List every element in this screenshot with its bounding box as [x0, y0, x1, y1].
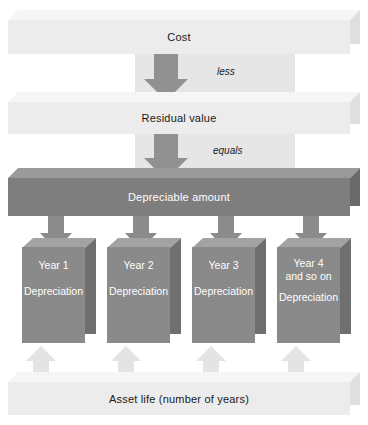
bar-cost: Cost: [8, 10, 360, 54]
cube-right-face: [170, 238, 181, 334]
depreciation-label: Depreciation: [194, 285, 253, 297]
arrow-shaft: [154, 53, 178, 81]
slab-top-face: [8, 10, 360, 20]
cube-front-face: Year 3 Depreciation: [192, 247, 255, 343]
year-box-1: Year 1 Depreciation: [22, 238, 96, 343]
cube-right-face: [340, 238, 351, 334]
depreciation-diagram: less Cost equals Residual value: [0, 0, 368, 425]
cube-front-face: Year 2 Depreciation: [107, 247, 170, 343]
slab-top-face: [8, 372, 360, 382]
bar-residual-value-label: Residual value: [142, 112, 217, 124]
year-box-3: Year 3 Depreciation: [192, 238, 266, 343]
year-label: Year 4: [294, 257, 324, 269]
bar-residual-value: Residual value: [8, 92, 360, 134]
slab-front-face: Asset life (number of years): [8, 382, 350, 415]
connector-label-equals: equals: [213, 145, 242, 156]
year-sublabel: and so on: [285, 270, 331, 282]
slab-top-face: [8, 168, 360, 178]
cube-right-face: [85, 238, 96, 334]
cube-front-face: Year 4 and so on Depreciation: [277, 247, 340, 343]
slab-top-face: [8, 92, 360, 102]
bar-depreciable-amount: Depreciable amount: [8, 168, 360, 216]
depreciation-label: Depreciation: [279, 291, 338, 303]
year-label: Year 2: [124, 259, 154, 271]
slab-front-face: Cost: [8, 20, 350, 54]
cube-right-face: [255, 238, 266, 334]
cube-front-face: Year 1 Depreciation: [22, 247, 85, 343]
bar-cost-label: Cost: [167, 31, 190, 43]
bar-asset-life: Asset life (number of years): [8, 372, 360, 415]
depreciation-label: Depreciation: [24, 285, 83, 297]
depreciation-label: Depreciation: [109, 285, 168, 297]
slab-front-face: Depreciable amount: [8, 178, 350, 216]
slab-front-face: Residual value: [8, 102, 350, 134]
year-label: Year 3: [209, 259, 239, 271]
year-label: Year 1: [39, 259, 69, 271]
arrow-shaft: [154, 132, 178, 160]
bar-asset-life-label: Asset life (number of years): [109, 393, 249, 405]
year-box-2: Year 2 Depreciation: [107, 238, 181, 343]
connector-label-less: less: [217, 66, 235, 77]
year-box-4: Year 4 and so on Depreciation: [277, 238, 351, 343]
bar-depreciable-amount-label: Depreciable amount: [128, 191, 230, 203]
